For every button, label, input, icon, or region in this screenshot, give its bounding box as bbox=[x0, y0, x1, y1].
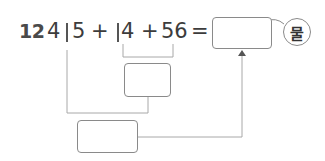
plus-sign-1: + bbox=[91, 19, 109, 43]
middle-answer-box[interactable] bbox=[124, 63, 171, 97]
unit-badge: 물 bbox=[283, 18, 311, 46]
question-number: 12 bbox=[19, 20, 44, 42]
answer-box[interactable] bbox=[212, 17, 272, 49]
bottom-answer-box[interactable] bbox=[77, 120, 138, 153]
digit-4: 4 bbox=[47, 19, 60, 43]
digit-14-tail: 4 bbox=[121, 19, 134, 43]
digit-15-tail: 5 bbox=[72, 19, 85, 43]
plus-sign-2: + bbox=[141, 19, 159, 43]
digit-1-bar bbox=[117, 23, 119, 42]
split-bar bbox=[66, 23, 68, 42]
number-56: 56 bbox=[161, 19, 188, 43]
equals-sign: = bbox=[191, 19, 209, 43]
